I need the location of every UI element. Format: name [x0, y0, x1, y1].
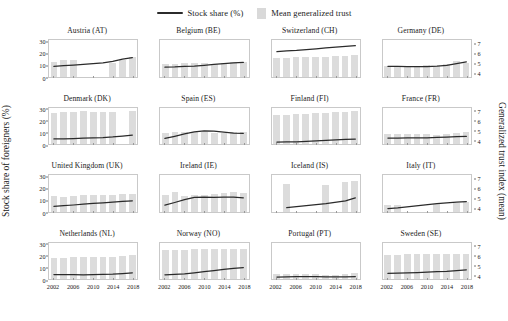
x-tickmark-2018: [244, 76, 245, 78]
line-series-ch: [272, 40, 360, 77]
panel-se: Sweden (SE)456720022006201020142018: [368, 229, 474, 295]
x-tickmark-2018: [467, 76, 468, 78]
y-tick-30: 30: [39, 173, 45, 180]
x-tickmark-2006: [407, 143, 408, 145]
x-tickmark-2014: [336, 76, 337, 78]
plot-area-no: [159, 242, 249, 281]
y-axis-ticks-right: 4567: [474, 174, 486, 213]
x-tick-2006: 2006: [178, 283, 190, 290]
y-axis-ticks-left: 0102030: [34, 174, 48, 213]
x-tickmark-2006: [296, 76, 297, 78]
panel-title-es: Spain (ES): [145, 94, 251, 107]
y-tick-right-5: 5: [478, 195, 481, 202]
x-tickmark-2018: [244, 143, 245, 145]
x-tickmark-2018: [244, 211, 245, 213]
line-series-is: [272, 175, 360, 212]
x-tickmark-2018: [356, 211, 357, 213]
line-series-nl: [49, 243, 137, 280]
x-tick-2018: 2018: [350, 283, 362, 290]
y-tick-20: 20: [39, 50, 45, 57]
y-tick-right-6: 6: [478, 117, 481, 124]
line-series-it: [383, 175, 471, 212]
x-tickmark-2018: [356, 143, 357, 145]
y-tick-0: 0: [42, 209, 45, 216]
y-axis-ticks-left: 0102030: [34, 107, 48, 146]
x-tickmark-2014: [113, 143, 114, 145]
x-tickmark-2018: [467, 211, 468, 213]
panel-fr: France (FR)4567: [368, 94, 474, 160]
panel-at: Austria (AT)0102030: [34, 26, 140, 92]
x-tickmark-2002: [164, 143, 165, 145]
panel-no: Norway (NO)20022006201020142018: [145, 229, 251, 295]
x-tickmark-2010: [204, 76, 205, 78]
line-series-no: [160, 243, 248, 280]
x-tickmark-2010: [93, 211, 94, 213]
x-tick-2002: 2002: [158, 283, 170, 290]
plot-area-is: [271, 174, 361, 213]
x-tickmark-2006: [73, 211, 74, 213]
x-tickmark-2010: [427, 211, 428, 213]
x-tickmark-2010: [316, 211, 317, 213]
panel-title-be: Belgium (BE): [145, 26, 251, 39]
x-tick-2010: 2010: [421, 283, 433, 290]
x-tick-2014: 2014: [107, 283, 119, 290]
line-series-dk: [49, 108, 137, 145]
plot-area-be: [159, 39, 249, 78]
plot-area-es: [159, 107, 249, 146]
panel-grid: Austria (AT)0102030Belgium (BE)Switzerla…: [34, 26, 474, 294]
x-tickmark-2002: [387, 76, 388, 78]
x-axis-tickmarks: [271, 76, 361, 78]
x-tickmark-2010: [93, 76, 94, 78]
x-tickmark-2014: [224, 143, 225, 145]
panel-title-ie: Ireland (IE): [145, 161, 251, 174]
x-tickmark-2002: [53, 143, 54, 145]
y-axis-label-left: Stock share of foreigners (%): [0, 0, 14, 321]
plot-area-uk: [48, 174, 138, 213]
plot-area-fr: [382, 107, 472, 146]
panel-ie: Ireland (IE): [145, 161, 251, 227]
x-tick-2006: 2006: [289, 283, 301, 290]
y-tick-right-5: 5: [478, 60, 481, 67]
plot-area-dk: [48, 107, 138, 146]
line-series-uk: [49, 175, 137, 212]
line-series-es: [160, 108, 248, 145]
legend-item-mean-trust: Mean generalized trust: [257, 8, 351, 19]
y-tick-0: 0: [42, 142, 45, 149]
y-axis-ticks-right: 4567: [474, 242, 486, 281]
x-tick-2014: 2014: [329, 283, 341, 290]
y-axis-label-right-text: Generalized trust index (mean): [497, 102, 507, 220]
x-tick-2002: 2002: [269, 283, 281, 290]
y-tick-right-7: 7: [478, 107, 481, 114]
y-axis-label-right: Generalized trust index (mean): [494, 0, 508, 321]
x-tickmark-2002: [164, 76, 165, 78]
y-axis-ticks-right: 4567: [474, 107, 486, 146]
y-tick-0: 0: [42, 74, 45, 81]
panel-fi: Finland (FI): [257, 94, 363, 160]
x-tickmark-2006: [296, 211, 297, 213]
plot-area-ch: [271, 39, 361, 78]
x-tickmark-2006: [73, 76, 74, 78]
panel-title-nl: Netherlands (NL): [34, 229, 140, 242]
x-tick-2010: 2010: [309, 283, 321, 290]
legend-label-mean-trust: Mean generalized trust: [271, 8, 351, 18]
line-series-fi: [272, 108, 360, 145]
x-tick-2014: 2014: [218, 283, 230, 290]
y-tick-right-7: 7: [478, 40, 481, 47]
y-tick-10: 10: [39, 129, 45, 136]
y-tick-30: 30: [39, 105, 45, 112]
x-tickmark-2010: [316, 76, 317, 78]
x-tickmark-2006: [184, 211, 185, 213]
x-tickmark-2014: [447, 143, 448, 145]
y-tick-30: 30: [39, 240, 45, 247]
panel-be: Belgium (BE): [145, 26, 251, 92]
y-tick-right-4: 4: [478, 70, 481, 77]
panel-title-dk: Denmark (DK): [34, 94, 140, 107]
x-tickmark-2018: [133, 143, 134, 145]
line-swatch-icon: [157, 12, 183, 14]
y-tick-20: 20: [39, 185, 45, 192]
y-tick-30: 30: [39, 38, 45, 45]
panel-title-at: Austria (AT): [34, 26, 140, 39]
line-series-de: [383, 40, 471, 77]
x-tickmark-2002: [276, 143, 277, 145]
x-tickmark-2006: [407, 76, 408, 78]
